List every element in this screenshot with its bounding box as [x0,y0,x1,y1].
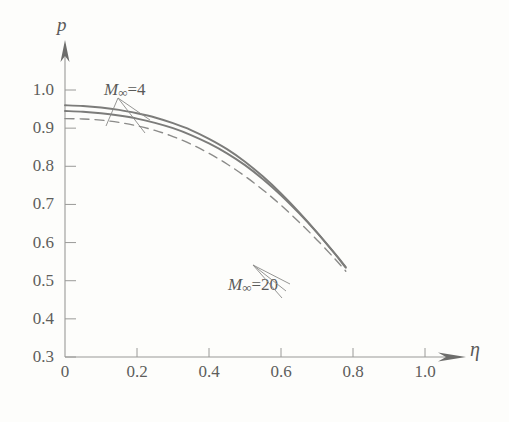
chart-figure: p η M∞=4 M∞=20 0.30.40.50.60.70.80.91.0 … [0,0,509,422]
y-tick-label: 0.4 [8,309,54,329]
y-tick-label: 0.5 [8,271,54,291]
x-tick-label: 0.4 [186,362,232,382]
y-tick-label: 1.0 [8,80,54,100]
x-tick-label: 1.0 [402,362,448,382]
y-tick-label: 0.8 [8,156,54,176]
series-upper-solid [65,105,346,267]
x-tick-label: 0 [42,362,88,382]
x-tick-label: 0.6 [258,362,304,382]
leader-line-m20 [253,265,290,298]
x-tick-label: 0.2 [114,362,160,382]
annotation-leader-lines [106,98,290,298]
data-series-group [65,105,346,271]
y-tick-label: 0.9 [8,118,54,138]
x-tick-marks [137,348,425,357]
series-lower-solid [65,111,346,267]
y-tick-label: 0.6 [8,233,54,253]
y-tick-label: 0.7 [8,194,54,214]
plot-canvas [0,0,509,422]
x-tick-label: 0.8 [330,362,376,382]
y-tick-marks [65,90,76,357]
